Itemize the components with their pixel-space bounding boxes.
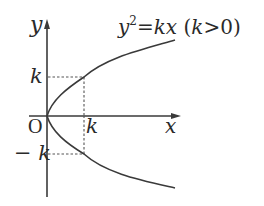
x-tick-k-label: k [86,116,98,136]
y-axis-arrow-icon [44,19,50,29]
equation-rhs: kx [154,15,177,39]
equation-lhs-base: y [118,15,129,39]
condition-var: k [191,15,203,39]
equation-label: y2=kx (k>0) [118,17,241,37]
y-axis-label: y [30,14,42,36]
origin-label: O [28,116,42,136]
condition-rest: >0) [203,15,240,39]
y-tick-neg-k-label: − k [14,143,51,164]
equation-equals: = [137,15,154,39]
parabola-curve [47,40,175,188]
guide-k-upper [48,77,84,116]
equation-exponent: 2 [129,14,137,28]
guide-k-lower [48,116,84,154]
y-tick-k-label: k [30,66,43,87]
x-axis-label: x [165,116,176,136]
